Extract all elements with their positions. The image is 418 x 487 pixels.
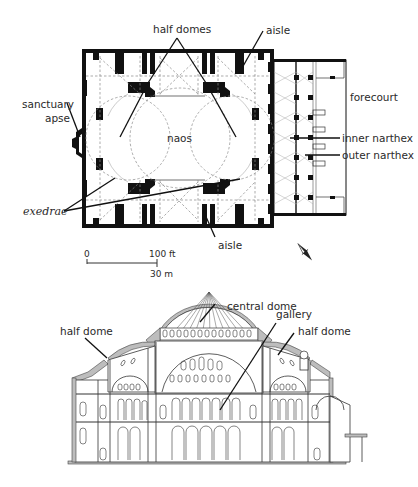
scale-meters: 30 m	[150, 269, 173, 279]
label-forecourt: forecourt	[350, 91, 398, 103]
label-sanctuary: sanctuary	[22, 98, 74, 110]
floor-plan: half domes aisle sanctuary apse naos for…	[22, 23, 414, 279]
label-exedrae: exedrae	[23, 205, 68, 218]
label-aisle-bottom: aisle	[218, 239, 242, 251]
label-aisle-top: aisle	[266, 24, 290, 36]
label-gallery: gallery	[276, 308, 312, 320]
label-half-domes: half domes	[153, 23, 211, 35]
label-inner-narthex: inner narthex	[342, 132, 413, 144]
scale-feet: 100 ft	[149, 249, 176, 259]
hagia-sophia-diagram: half domes aisle sanctuary apse naos for…	[0, 0, 418, 487]
label-half-dome-right: half dome	[298, 325, 351, 337]
cross-section: central dome gallery half dome half dome	[60, 292, 367, 464]
scale-zero: 0	[84, 249, 90, 259]
label-outer-narthex: outer narthex	[342, 149, 414, 161]
north-arrow-icon	[295, 241, 315, 263]
scale-bar: 0 100 ft 30 m	[84, 249, 176, 279]
label-apse-text: apse	[45, 112, 70, 124]
label-half-dome-left: half dome	[60, 325, 113, 337]
label-naos: naos	[167, 132, 192, 144]
